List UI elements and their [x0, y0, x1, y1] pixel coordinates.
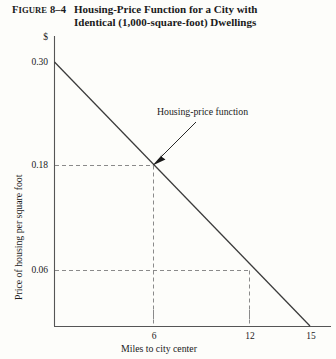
plot-area: $ 0.30 0.18 0.06 6 12 15 Miles to city c…	[0, 0, 336, 359]
y-tick-label-018: 0.18	[14, 160, 48, 170]
y-axis-currency-symbol: $	[34, 32, 48, 42]
y-axis-title: Price of housing per square foot	[13, 175, 24, 300]
x-tick-label-12: 12	[238, 331, 262, 341]
x-tick-label-6: 6	[142, 331, 166, 341]
housing-price-function-line	[55, 62, 311, 326]
x-tick-label-15: 15	[299, 331, 323, 341]
annotation-arrow	[153, 122, 197, 166]
x-axis-title: Miles to city center	[121, 343, 197, 354]
chart-svg	[0, 0, 336, 359]
y-tick-label-030: 0.30	[14, 57, 48, 67]
figure-container: FIGURE 8–4 Housing-Price Function for a …	[0, 0, 336, 359]
series-annotation-label: Housing-price function	[157, 106, 248, 117]
